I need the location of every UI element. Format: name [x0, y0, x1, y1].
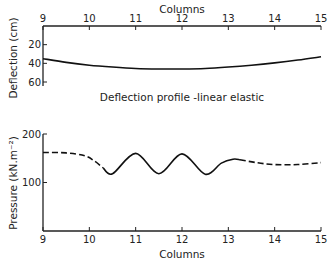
bottom-y-tick-label: 100 [22, 177, 41, 188]
top-y-tick-label: 40 [28, 58, 41, 69]
top-x-tick-label: 10 [83, 13, 96, 24]
bottom-x-tick-label: 14 [268, 234, 281, 245]
bottom-x-tick-label: 10 [83, 234, 96, 245]
top-y-axis-label: Deflection (cm) [7, 17, 19, 98]
top-chart-title: Deflection profile -linear elastic [100, 91, 264, 103]
deflection-chart: Columns 9101112131415 204060 Deflection … [7, 3, 327, 103]
bottom-x-tick-label: 12 [176, 234, 189, 245]
chart-figure: Columns 9101112131415 204060 Deflection … [0, 0, 332, 266]
pressure-estimated-left-line [43, 152, 103, 168]
top-y-tick-label: 60 [28, 77, 41, 88]
top-x-tick-label: 12 [176, 13, 189, 24]
bottom-x-tick-label: 9 [40, 234, 46, 245]
pressure-chart: 9101112131415 100200 Pressure (kN.m⁻²) C… [7, 129, 327, 261]
bottom-x-tick-label: 11 [129, 234, 142, 245]
bottom-x-tick-label: 15 [315, 234, 328, 245]
pressure-measured-line [103, 153, 240, 174]
bottom-x-axis-label: Columns [159, 248, 205, 260]
pressure-estimated-right-line [240, 160, 321, 165]
bottom-y-tick-label: 200 [22, 129, 41, 140]
top-x-tick-label: 14 [268, 13, 281, 24]
top-x-tick-label: 9 [40, 13, 46, 24]
deflection-curve [43, 57, 321, 69]
top-x-tick-label: 11 [129, 13, 142, 24]
bottom-x-tick-label: 13 [222, 234, 235, 245]
top-x-tick-label: 13 [222, 13, 235, 24]
top-x-tick-label: 15 [315, 13, 328, 24]
top-y-tick-label: 20 [28, 39, 41, 50]
bottom-y-axis-label: Pressure (kN.m⁻²) [7, 136, 19, 230]
